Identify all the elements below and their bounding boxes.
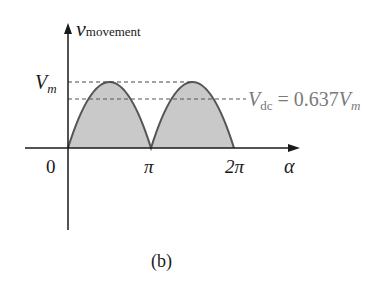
peak-label: Vm — [35, 71, 57, 96]
y-axis-label: vmovement — [76, 16, 141, 41]
tick-label-0: 0 — [46, 156, 56, 177]
figure-caption: (b) — [151, 251, 172, 272]
x-axis-arrow-icon — [288, 144, 300, 152]
y-axis-arrow-icon — [64, 23, 72, 34]
waveform-diagram: vmovement Vm Vdc = 0.637Vm 0 π 2π α (b) — [0, 0, 390, 290]
tick-label-pi: π — [144, 156, 154, 177]
dc-label: Vdc = 0.637Vm — [248, 88, 360, 113]
x-axis-label: α — [284, 155, 295, 177]
tick-label-2pi: 2π — [225, 156, 245, 177]
